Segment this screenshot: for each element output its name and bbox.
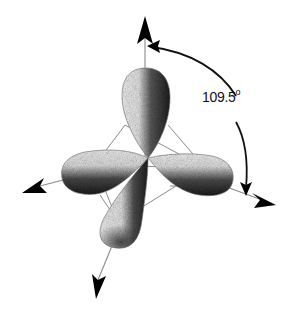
right-arrow-icon [252, 193, 276, 208]
arc-start-arrow-icon [147, 40, 160, 53]
right-orbital-lobe [148, 154, 233, 196]
bond-angle-label: 109.5o [202, 88, 240, 105]
top-orbital-lobe [122, 68, 170, 158]
bond-angle-value: 109.5 [202, 89, 236, 105]
sp3-orbital-diagram [0, 0, 290, 317]
degree-symbol: o [236, 87, 241, 97]
